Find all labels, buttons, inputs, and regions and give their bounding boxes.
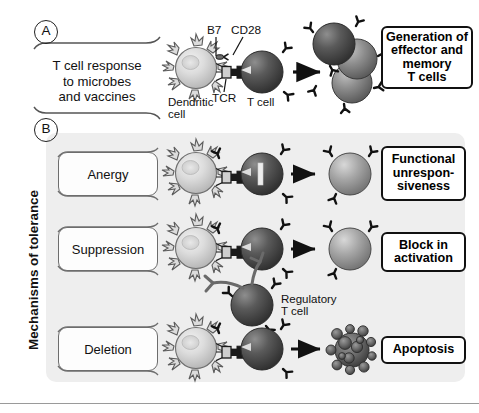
cd28-label: CD28 — [231, 24, 261, 36]
row-label-anergy: Anergy — [58, 152, 158, 196]
outcome-a-line-1: Generation of — [386, 31, 468, 44]
stimulus-line-3: and vaccines — [40, 89, 154, 105]
panel-a-outcome-box: Generation of effector and memory T cell… — [381, 26, 473, 89]
row-label-suppression: Suppression — [58, 227, 158, 271]
panel-a-t-cell — [241, 43, 293, 101]
panel-a-tcr-mhc-complex — [216, 64, 245, 81]
panel-b-row-anergy-artwork — [162, 139, 377, 206]
outcome-anergy-line-1: Functional — [392, 153, 456, 166]
outcome-box-deletion: Apoptosis — [381, 336, 466, 364]
outcome-box-suppression: Block in activation — [381, 232, 466, 272]
outcome-suppression-line-1: Block in — [394, 239, 453, 252]
regulatory-line-1: Regulatory — [281, 293, 337, 305]
anergy-block-bar — [258, 163, 263, 185]
apoptotic-cell — [326, 325, 376, 375]
bottom-divider — [0, 403, 479, 404]
tcr-label: TCR — [212, 92, 236, 104]
panel-a-effector-memory-cells — [304, 16, 387, 113]
outcome-suppression-line-2: activation — [394, 252, 453, 265]
regulatory-t-cell-label: Regulatory T cell — [281, 293, 337, 318]
dendritic-cell-label-line-1: Dendritic — [168, 96, 213, 108]
panel-b-row-suppression-artwork — [162, 214, 377, 335]
panel-b-row-deletion-artwork — [162, 314, 376, 381]
outcome-box-anergy: Functional unrespon- siveness — [381, 146, 466, 201]
panel-a-stimulus-label: T cell response to microbes and vaccines — [34, 52, 160, 111]
mechanisms-of-tolerance-label: Mechanisms of tolerance — [26, 190, 41, 350]
t-cell-label: T cell — [247, 96, 274, 108]
row-label-deletion: Deletion — [58, 327, 158, 371]
stimulus-line-2: to microbes — [40, 74, 154, 90]
stimulus-line-1: T cell response — [40, 58, 154, 74]
outcome-a-line-2: effector and — [386, 44, 468, 57]
dendritic-cell-label: Dendritic cell — [168, 96, 213, 121]
dendritic-cell-label-line-2: cell — [168, 108, 213, 120]
regulatory-line-2: T cell — [281, 305, 337, 317]
figure-canvas: A T cell response to microbes and vaccin… — [0, 0, 479, 413]
b7-label: B7 — [207, 24, 221, 36]
panel-a-letter: A — [34, 20, 58, 44]
panel-a-b7-cd28-complex — [216, 54, 229, 60]
outcome-a-line-3: memory — [386, 58, 468, 71]
outcome-anergy-line-2: unrespon- — [392, 167, 456, 180]
outcome-a-line-4: T cells — [386, 71, 468, 84]
panel-b-letter: B — [34, 118, 58, 142]
outcome-anergy-line-3: siveness — [392, 180, 456, 193]
